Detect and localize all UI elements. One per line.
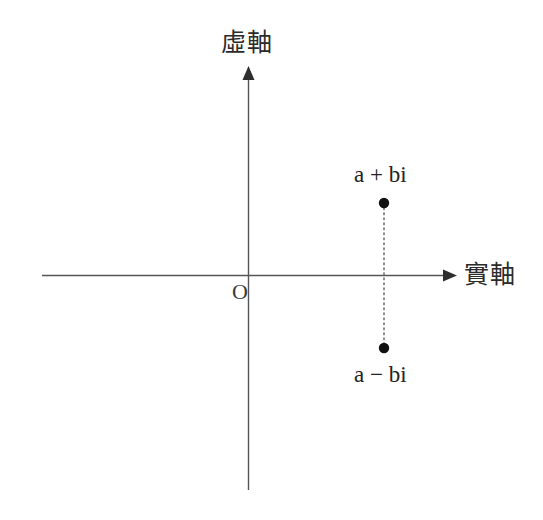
figure-canvas <box>0 0 543 520</box>
point-label-a-minus-bi: a − bi <box>354 363 407 386</box>
imaginary-axis-label: 虛軸 <box>221 30 273 55</box>
point-marker-a-plus-bi <box>379 198 389 208</box>
canvas-background <box>0 0 543 520</box>
real-axis-label: 實軸 <box>464 262 516 287</box>
point-label-a-plus-bi: a + bi <box>354 163 407 186</box>
complex-plane-figure: 虛軸 實軸 O a + bi a − bi <box>0 0 543 520</box>
point-marker-a-minus-bi <box>379 343 389 353</box>
origin-label: O <box>232 281 248 303</box>
